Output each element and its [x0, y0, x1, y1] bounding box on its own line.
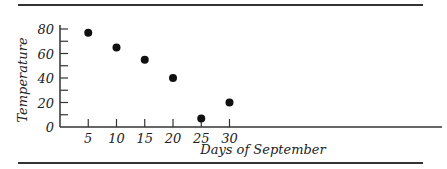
- y-tick-label: 40: [36, 71, 54, 86]
- x-tick-label: 10: [108, 131, 125, 146]
- x-tick-label: 15: [136, 131, 153, 146]
- data-point: [84, 29, 92, 37]
- scatter-chart: 02040608051015202530Days of SeptemberTem…: [0, 0, 447, 169]
- data-point: [197, 114, 205, 122]
- y-tick-label: 0: [46, 120, 54, 135]
- data-point: [226, 99, 234, 107]
- y-axis-label: Temperature: [15, 37, 30, 122]
- x-tick-label: 5: [84, 131, 92, 146]
- data-point: [169, 74, 177, 82]
- y-tick-label: 60: [37, 47, 54, 62]
- data-point: [141, 56, 149, 64]
- x-tick-label: 20: [164, 131, 182, 146]
- x-axis-label: Days of September: [199, 142, 326, 157]
- y-tick-label: 20: [36, 96, 54, 111]
- data-point: [113, 43, 121, 51]
- y-tick-label: 80: [37, 22, 54, 37]
